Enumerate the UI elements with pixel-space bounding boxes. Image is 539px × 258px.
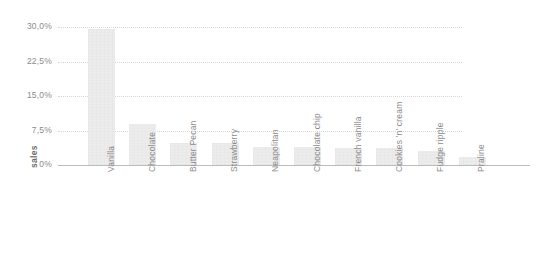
x-tick-label: Fudge ripple [435,122,445,172]
x-tick-label: Praline [476,144,486,172]
x-tick-label: Cookies 'n' cream [394,102,404,172]
x-tick-label: Chocolate [147,132,157,172]
x-tick-label: Strawberry [229,129,239,172]
x-tick-label: Butter Pecan [188,120,198,172]
bars-layer: VanillaChocolateButter PecanStrawberryNe… [0,0,539,258]
x-tick-label: French vanilla [353,116,363,172]
bar-chart: 30,0% 22,5% 15,0% 7,5% 0% sales VanillaC… [0,0,539,258]
x-tick-label: Neapolitan [270,129,280,172]
x-tick-label: Vanilla [106,146,116,172]
bar[interactable] [88,29,115,165]
x-tick-label: Chocolate chip [312,113,322,172]
